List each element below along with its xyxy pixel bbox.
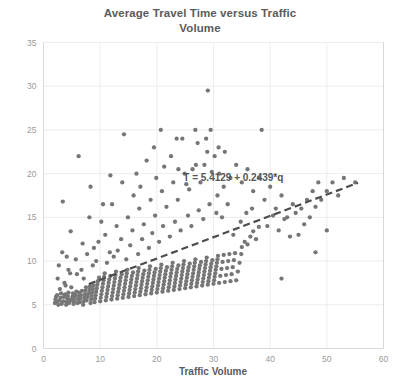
svg-text:25: 25 xyxy=(27,125,37,135)
svg-text:35: 35 xyxy=(27,38,37,48)
svg-text:15: 15 xyxy=(27,212,37,222)
svg-text:20: 20 xyxy=(27,169,37,179)
plot-canvas: 05101520253035 0102030405060 T = 5.4129 … xyxy=(0,0,398,389)
svg-text:30: 30 xyxy=(27,81,37,91)
svg-text:40: 40 xyxy=(265,354,275,364)
svg-text:5: 5 xyxy=(32,300,37,310)
svg-text:10: 10 xyxy=(95,354,105,364)
svg-text:30: 30 xyxy=(209,354,219,364)
y-tick-labels: 05101520253035 xyxy=(27,38,37,354)
svg-text:10: 10 xyxy=(27,256,37,266)
regression-equation-annotation: T = 5.4129 + 0.2439*q xyxy=(183,172,283,183)
scatter-chart: Average Travel Time versus Traffic Volum… xyxy=(0,0,398,389)
svg-text:0: 0 xyxy=(32,344,37,354)
svg-text:60: 60 xyxy=(379,354,389,364)
svg-text:50: 50 xyxy=(322,354,332,364)
x-tick-labels: 0102030405060 xyxy=(41,354,388,364)
data-points xyxy=(53,88,358,307)
svg-text:20: 20 xyxy=(152,354,162,364)
svg-text:T = 5.4129 + 0.2439*q: T = 5.4129 + 0.2439*q xyxy=(183,172,283,183)
x-axis-label: Traffic Volume xyxy=(43,366,383,377)
svg-text:0: 0 xyxy=(41,354,46,364)
